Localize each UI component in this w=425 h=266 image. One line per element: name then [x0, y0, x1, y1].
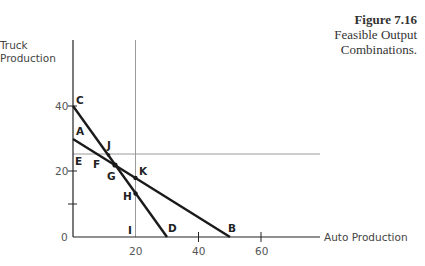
point-label-h: H [123, 190, 132, 202]
point-h-marker [133, 191, 137, 195]
chart-canvas: 40 20 0 20 40 60 Auto Production C A E J… [0, 0, 425, 266]
point-label-i: I [128, 224, 132, 236]
point-k-marker [133, 176, 137, 180]
point-label-e: E [75, 155, 82, 167]
point-label-a: A [76, 125, 85, 137]
line-cd [73, 106, 167, 237]
point-label-j: J [106, 139, 111, 151]
point-j-marker [107, 153, 111, 157]
y-tick-label-40: 40 [55, 100, 68, 112]
x-tick-label-20: 20 [129, 245, 142, 257]
point-label-f: F [93, 158, 100, 170]
point-label-g: G [107, 170, 116, 182]
point-label-d: D [168, 222, 177, 234]
point-label-k: K [139, 165, 148, 177]
x-tick-label-40: 40 [192, 245, 205, 257]
y-tick-label-0: 0 [61, 231, 68, 243]
point-g-marker [112, 162, 117, 167]
x-axis-label: Auto Production [324, 231, 408, 243]
point-label-c: C [76, 94, 84, 106]
point-label-b: B [228, 222, 236, 234]
y-tick-label-20: 20 [55, 165, 68, 177]
x-tick-label-60: 60 [255, 245, 268, 257]
